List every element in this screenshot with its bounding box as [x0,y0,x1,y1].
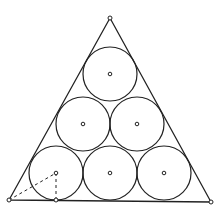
circle-packing-diagram [0,0,222,210]
center-point-4 [108,171,112,175]
center-point-0 [108,72,112,76]
bottom-left-point [7,198,11,202]
center-point-2 [135,122,139,126]
center-point-5 [162,171,166,175]
circles-group [29,47,191,200]
tangent-point [54,198,58,202]
center-point-1 [81,122,85,126]
apex-point [108,16,112,20]
center-point-3 [54,171,58,175]
marked-points [7,16,213,204]
bottom-right-point [209,200,213,204]
